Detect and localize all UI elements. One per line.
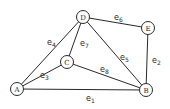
- node-label: A: [13, 86, 20, 94]
- node-D: D: [77, 11, 90, 24]
- edge-e2: [146, 28, 148, 90]
- edge-label-e7: e7: [80, 39, 89, 49]
- edge-label-e1: e1: [86, 94, 95, 104]
- edge-e4: [17, 17, 83, 89]
- edge-e1: [17, 89, 146, 90]
- edge-label-e2: e2: [152, 56, 161, 66]
- node-label: D: [80, 14, 86, 22]
- graph-svg: ABCDE e1e2e3e4e5e6e7e8: [0, 0, 170, 109]
- edges-layer: [17, 17, 148, 90]
- node-label: C: [64, 59, 69, 67]
- edge-label-e5: e5: [120, 53, 129, 63]
- edge-label-e6: e6: [114, 13, 123, 23]
- node-C: C: [61, 56, 74, 69]
- edge-label-e8: e8: [100, 65, 109, 75]
- node-label: B: [143, 87, 148, 95]
- node-E: E: [142, 22, 155, 35]
- graph-diagram: ABCDE e1e2e3e4e5e6e7e8: [0, 0, 170, 109]
- node-B: B: [140, 84, 153, 97]
- edge-label-e4: e4: [47, 38, 56, 48]
- node-label: E: [145, 25, 150, 33]
- node-A: A: [11, 83, 24, 96]
- nodes-layer: ABCDE: [11, 11, 155, 97]
